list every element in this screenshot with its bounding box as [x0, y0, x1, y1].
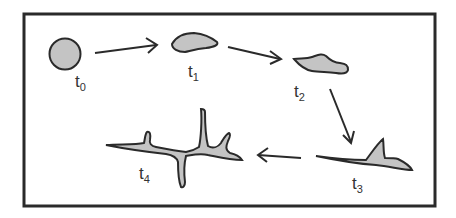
- arrow-t1-t2: [228, 47, 281, 64]
- frame-border: [24, 14, 435, 206]
- round-cell-shape: [50, 39, 81, 70]
- stage-label: t2: [294, 82, 305, 103]
- irregular-cell-shape: [294, 54, 348, 73]
- arrow-t2-t3: [330, 89, 354, 143]
- stage-label: t1: [188, 62, 199, 83]
- arrow-t3-t4: [258, 148, 301, 162]
- stage-label: t4: [139, 164, 150, 185]
- stage-t1: t1: [172, 33, 217, 83]
- stage-t4: t4: [106, 109, 242, 187]
- stage-t0: t0: [50, 39, 86, 94]
- stage-label: t0: [75, 72, 86, 93]
- arrow-t0-t1: [95, 38, 157, 53]
- stage-diagram: t0 t1 t2 t3 t4: [0, 0, 456, 218]
- stage-t2: t2: [294, 54, 348, 103]
- spiked-cell-shape: [316, 139, 412, 170]
- branched-cell-shape: [106, 109, 242, 187]
- stage-label: t3: [352, 174, 363, 195]
- stage-t3: t3: [316, 139, 412, 195]
- blob-cell-shape: [172, 33, 217, 52]
